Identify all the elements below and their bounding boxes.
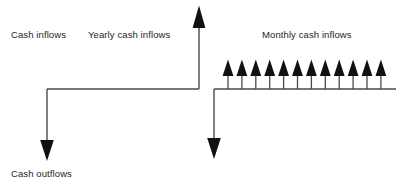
monthly-inflow-arrow — [250, 60, 261, 90]
monthly-inflow-arrow-head — [250, 60, 261, 77]
cash-flow-diagram-canvas: Cash inflows Yearly cash inflows Monthly… — [0, 0, 407, 185]
monthly-inflow-arrow — [306, 60, 317, 90]
monthly-inflow-arrow — [223, 60, 234, 90]
label-cash-outflows: Cash outflows — [11, 168, 72, 179]
monthly-inflow-arrow-head — [237, 60, 248, 77]
label-cash-inflows: Cash inflows — [11, 29, 66, 40]
left-outflow-arrow-head — [40, 140, 54, 161]
monthly-inflow-arrow — [362, 60, 373, 90]
monthly-inflow-arrow — [348, 60, 359, 90]
monthly-inflow-arrow-head — [292, 60, 303, 77]
monthly-inflow-arrow — [278, 60, 289, 90]
monthly-inflow-arrow — [264, 60, 275, 90]
monthly-timeline-group — [207, 60, 396, 160]
monthly-inflow-arrow-head — [334, 60, 345, 77]
label-monthly-cash-inflows: Monthly cash inflows — [262, 29, 352, 40]
right-outflow-arrow — [207, 89, 221, 159]
yearly-inflow-arrow — [193, 6, 206, 90]
monthly-inflow-arrow-head — [320, 60, 331, 77]
monthly-inflow-arrow — [376, 60, 387, 90]
monthly-inflow-arrow-head — [376, 60, 387, 77]
monthly-inflow-arrow-head — [348, 60, 359, 77]
cash-flow-diagram-svg — [0, 0, 407, 185]
monthly-inflow-arrow — [292, 60, 303, 90]
right-outflow-arrow-head — [207, 138, 221, 159]
monthly-inflow-arrow-head — [264, 60, 275, 77]
yearly-inflow-arrow-head — [193, 6, 206, 29]
monthly-inflow-arrow — [334, 60, 345, 90]
monthly-inflow-arrow-head — [223, 60, 234, 77]
monthly-inflow-arrow-head — [362, 60, 373, 77]
monthly-inflow-arrow-head — [278, 60, 289, 77]
monthly-inflow-arrow — [237, 60, 248, 90]
monthly-inflow-arrow — [320, 60, 331, 90]
monthly-inflow-arrow-head — [306, 60, 317, 77]
label-yearly-cash-inflows: Yearly cash inflows — [88, 29, 170, 40]
monthly-inflow-arrows — [223, 60, 387, 90]
left-outflow-arrow — [40, 89, 54, 161]
